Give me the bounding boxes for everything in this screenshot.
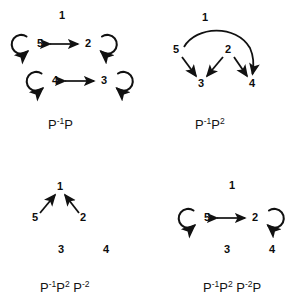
- node-2: 2: [81, 38, 95, 49]
- node-4: 4: [265, 244, 279, 255]
- caption-sup-3: -2: [82, 279, 90, 289]
- diagram-panel-top-right: 1 5 2 3 4 P-1P2: [151, 0, 301, 153]
- caption-base-1: P: [195, 117, 204, 132]
- node-2: 2: [76, 212, 90, 223]
- panel-caption: P-1P2 P-2: [40, 281, 90, 295]
- diagram-panel-bottom-left: 1 5 2 3 4 P-1P2 P-2: [0, 153, 150, 306]
- caption-base-3: P: [73, 280, 82, 295]
- self-loop-node-4: [27, 72, 43, 91]
- node-3: 3: [54, 244, 68, 255]
- node-3: 3: [97, 75, 111, 86]
- node-3: 3: [194, 78, 208, 89]
- edge-2-4-arrow: [234, 57, 247, 76]
- node-2: 2: [221, 44, 235, 55]
- edge-5-1-arrow: [40, 195, 55, 213]
- permutation-figure: 1 5 2 4 3 P-1P: [0, 0, 301, 306]
- panel-caption: P-1P2: [195, 118, 225, 132]
- caption-base-3: P: [236, 280, 245, 295]
- node-1: 1: [55, 10, 69, 21]
- caption-base-4: P: [253, 280, 262, 295]
- edge-2-1-arrow: [65, 195, 79, 213]
- caption-base-2: P: [56, 280, 65, 295]
- node-5: 5: [169, 44, 183, 55]
- panel-top-left-graphics: [0, 0, 150, 153]
- self-loop-node-2: [268, 209, 284, 228]
- node-5: 5: [33, 38, 47, 49]
- diagram-panel-top-left: 1 5 2 4 3 P-1P: [0, 0, 150, 153]
- node-4: 4: [245, 78, 259, 89]
- caption-base-1: P: [203, 280, 212, 295]
- caption-base-2: P: [64, 117, 73, 132]
- edge-5-4-curved-arc: [184, 31, 253, 74]
- caption-sup-3: -2: [245, 279, 253, 289]
- diagram-panel-bottom-right: 1 5 2 3 4 P-1P2 P-2P: [151, 153, 301, 306]
- node-1: 1: [53, 181, 67, 192]
- self-loop-node-2: [101, 35, 117, 54]
- caption-sup-2: 2: [220, 116, 225, 126]
- edge-5-3-arrow: [182, 57, 196, 76]
- node-4: 4: [48, 75, 62, 86]
- self-loop-node-5: [179, 209, 195, 228]
- edge-2-3-arrow: [207, 57, 223, 76]
- panel-caption: P-1P: [48, 118, 73, 132]
- node-1: 1: [198, 12, 212, 23]
- caption-base-2: P: [211, 117, 220, 132]
- node-4: 4: [99, 244, 113, 255]
- node-5: 5: [28, 212, 42, 223]
- node-5: 5: [200, 212, 214, 223]
- node-1: 1: [225, 180, 239, 191]
- caption-base-1: P: [40, 280, 49, 295]
- node-2: 2: [248, 212, 262, 223]
- panel-caption: P-1P2 P-2P: [203, 281, 261, 295]
- caption-base-1: P: [48, 117, 57, 132]
- caption-base-2: P: [219, 280, 228, 295]
- self-loop-node-5: [12, 35, 28, 54]
- self-loop-node-3: [117, 72, 133, 91]
- panel-top-right-graphics: [151, 0, 301, 153]
- node-3: 3: [220, 244, 234, 255]
